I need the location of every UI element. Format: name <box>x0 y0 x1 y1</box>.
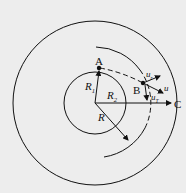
diagram: A B C R1 R2 R ur u uT <box>0 0 186 193</box>
label-r1: R1 <box>85 81 95 95</box>
label-ut: uT <box>151 93 159 104</box>
radius-r1 <box>95 71 99 103</box>
label-r: R <box>98 112 105 123</box>
middle-arc-lower <box>104 128 145 157</box>
trajectory-a-b <box>100 68 143 83</box>
vector-ut <box>145 85 147 100</box>
label-b: B <box>133 85 140 96</box>
label-c: C <box>174 99 181 110</box>
label-a: A <box>95 56 103 67</box>
label-u: u <box>164 84 169 93</box>
label-r2: R2 <box>107 90 117 104</box>
label-ur: ur <box>146 70 153 81</box>
